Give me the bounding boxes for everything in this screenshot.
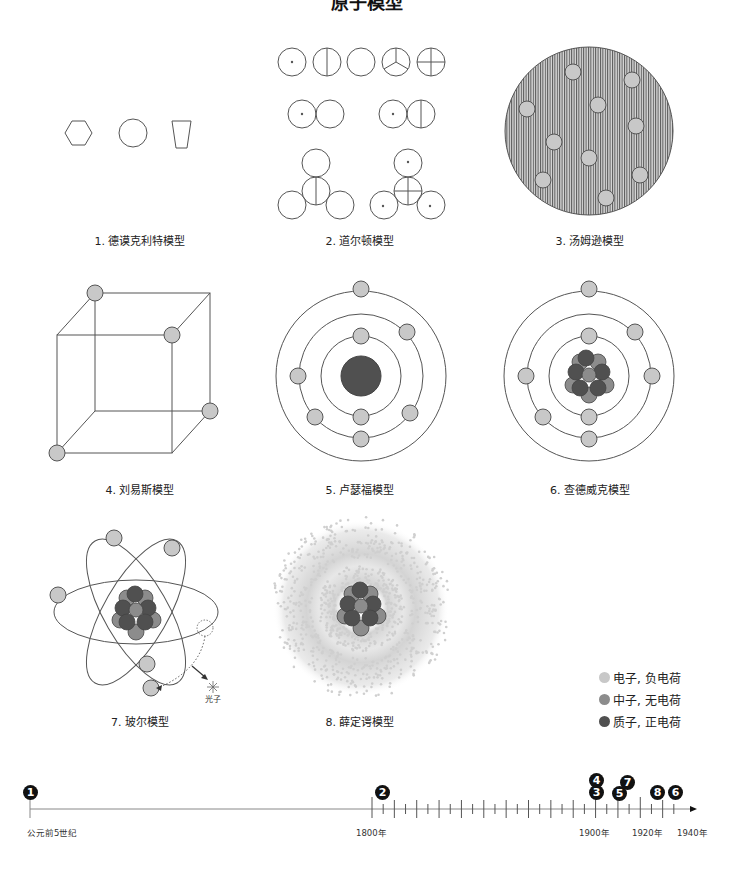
timeline-badge-6: 6: [668, 785, 683, 800]
timeline-badge-2: 2: [375, 785, 390, 800]
timeline-label-1800: 1800年: [356, 826, 387, 838]
timeline-badge-7: 7: [620, 775, 635, 790]
timeline-badge-8: 8: [650, 785, 665, 800]
timeline-label-1940: 1940年: [677, 826, 708, 838]
timeline-label-1920: 1920年: [632, 826, 663, 838]
timeline-label-1900: 1900年: [579, 826, 610, 838]
timeline-axis: [0, 0, 733, 877]
timeline-label-5th-century-bc: 公元前5世纪: [27, 826, 77, 838]
timeline-badge-1: 1: [23, 785, 38, 800]
timeline-badge-4: 4: [589, 773, 604, 788]
